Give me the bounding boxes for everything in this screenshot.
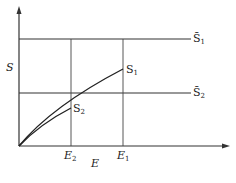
y-axis-label: S [6,62,14,73]
s2-bar-base: S̄ [193,86,201,99]
x-axis-label: E [91,158,99,169]
s1-curve-sub: 1 [134,69,138,77]
tick-e2: E2 [64,150,77,163]
s1-curve-label: S1 [126,64,138,77]
s2-curve-label: S2 [73,103,85,116]
s2-bar-label: S̄2 [193,87,205,100]
tick-e1-base: E [117,149,125,162]
tick-e2-base: E [64,149,72,162]
s1-curve-base: S [126,63,134,76]
y-axis-arrow-icon [17,6,22,14]
s2-curve [19,108,71,146]
s2-bar-sub: 2 [201,92,205,100]
s2-curve-base: S [73,102,81,115]
x-axis-arrow-icon [222,144,230,149]
s1-bar-base: S̄ [193,32,201,45]
tick-e1-sub: 1 [125,155,129,163]
s1-bar-label: S̄1 [193,33,205,46]
s2-curve-sub: 2 [81,108,85,116]
s1-bar-sub: 1 [201,38,205,46]
tick-e2-sub: 2 [72,155,76,163]
tick-e1: E1 [117,150,130,163]
